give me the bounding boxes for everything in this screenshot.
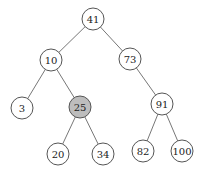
node-label: 34 [97, 149, 110, 160]
tree-node: 73 [119, 48, 141, 70]
node-label: 73 [124, 54, 137, 65]
tree-nodes: 41 10 73 3 25 91 20 34 82 100 [11, 8, 193, 165]
node-label: 82 [137, 146, 150, 157]
node-label: 91 [156, 99, 169, 110]
tree-node: 91 [151, 93, 173, 115]
node-label: 100 [172, 146, 191, 157]
node-label: 25 [74, 102, 87, 113]
node-label: 41 [87, 14, 100, 25]
tree-diagram: 41 10 73 3 25 91 20 34 82 100 [0, 0, 207, 174]
tree-node: 34 [92, 143, 114, 165]
node-label: 10 [45, 55, 58, 66]
tree-node: 20 [47, 143, 69, 165]
tree-node: 82 [132, 140, 154, 162]
tree-edges [22, 19, 182, 154]
tree-node: 10 [40, 49, 62, 71]
node-label: 3 [19, 103, 25, 114]
tree-node-highlighted: 25 [69, 96, 91, 118]
tree-node: 3 [11, 97, 33, 119]
tree-node: 100 [171, 140, 193, 162]
tree-node: 41 [82, 8, 104, 30]
node-label: 20 [52, 149, 65, 160]
